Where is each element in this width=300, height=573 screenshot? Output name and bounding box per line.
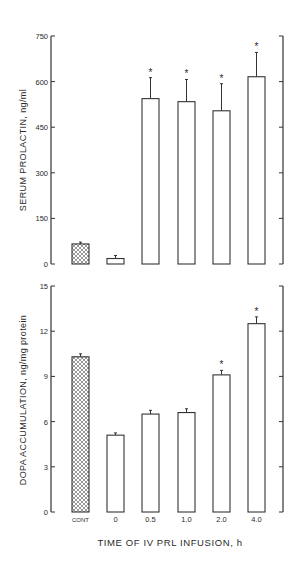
x-tick-label: 4.0: [251, 515, 261, 524]
dopa-accumulation-chart: 03691215DOPA ACCUMULATION, ng/mg protein…: [18, 282, 283, 524]
y-axis-label: DOPA ACCUMULATION, ng/mg protein: [18, 315, 28, 486]
bar-CONT: [72, 244, 89, 264]
bar-1.0: [178, 413, 195, 512]
significance-asterisk: *: [220, 73, 224, 84]
x-tick-label: CONT: [72, 517, 89, 523]
bar-0.5: [142, 414, 159, 512]
x-tick-label: 0: [113, 515, 117, 524]
bar-CONT: [72, 357, 89, 512]
bar-0.5: [142, 99, 159, 264]
significance-asterisk: *: [149, 67, 153, 78]
x-tick-label: 1.0: [181, 515, 191, 524]
bar-4.0: [248, 77, 265, 264]
y-tick-label: 6: [44, 418, 48, 427]
y-tick-label: 9: [44, 372, 48, 381]
significance-asterisk: *: [220, 359, 224, 370]
y-tick-label: 450: [35, 123, 48, 132]
x-tick-label: 2.0: [216, 515, 226, 524]
y-tick-label: 600: [35, 78, 48, 87]
y-tick-label: 300: [35, 169, 48, 178]
significance-asterisk: *: [255, 41, 259, 52]
significance-asterisk: *: [185, 68, 189, 79]
y-tick-label: 3: [44, 463, 48, 472]
y-tick-label: 150: [35, 214, 48, 223]
y-axis-label: SERUM PROLACTIN, ng/ml: [18, 89, 28, 211]
figure: 0150300450600750SERUM PROLACTIN, ng/ml**…: [0, 0, 300, 573]
bar-2.0: [213, 375, 230, 512]
bar-2.0: [213, 111, 230, 264]
x-tick-label: 0.5: [145, 515, 155, 524]
y-tick-label: 0: [44, 260, 48, 269]
significance-asterisk: *: [255, 306, 259, 317]
y-tick-label: 15: [40, 282, 48, 291]
x-axis-label: TIME OF IV PRL INFUSION, h: [97, 537, 242, 548]
y-tick-label: 750: [35, 32, 48, 41]
bar-4.0: [248, 324, 265, 512]
bar-0: [107, 435, 124, 512]
bar-1.0: [178, 102, 195, 264]
y-tick-label: 12: [40, 327, 48, 336]
y-tick-label: 0: [44, 508, 48, 517]
serum-prolactin-chart: 0150300450600750SERUM PROLACTIN, ng/ml**…: [18, 32, 283, 269]
bar-0: [107, 259, 124, 264]
